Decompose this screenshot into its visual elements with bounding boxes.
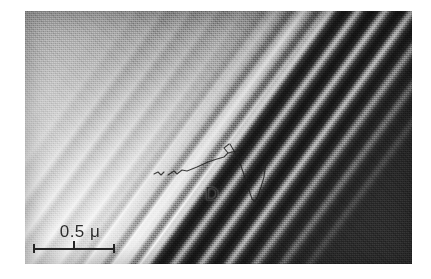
scale-bar-label: 0.5 μ (33, 223, 125, 241)
scale-bar-rule (33, 244, 125, 253)
scale-bar: 0.5 μ (33, 223, 125, 253)
dislocation-line-v (230, 144, 266, 202)
dislocation-label: D (205, 184, 219, 203)
scale-bar-tick-left (33, 244, 35, 253)
micrograph-plate: D 0.5 μ (25, 11, 412, 264)
dislocation-line-left (168, 144, 229, 175)
scale-bar-tick-right (113, 244, 115, 253)
scale-bar-tick-center (73, 241, 75, 249)
figure-page: D 0.5 μ (0, 0, 431, 279)
dislocation-line-branch (228, 150, 246, 153)
dislocation-line-tail (154, 172, 164, 175)
